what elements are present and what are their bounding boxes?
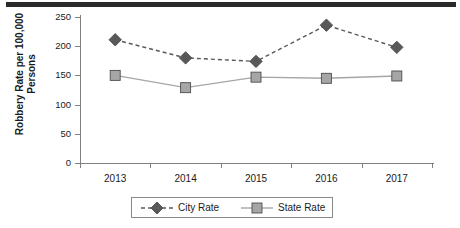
data-point-marker[interactable] — [251, 72, 261, 82]
chart-page: Robbery Rate per 100,000 Persons 0501001… — [0, 0, 460, 228]
chart-legend: City RateState Rate — [131, 197, 333, 218]
data-point-marker[interactable] — [321, 73, 331, 83]
data-point-marker[interactable] — [181, 83, 191, 93]
top-banner-bar — [6, 2, 456, 7]
legend-label: City Rate — [178, 202, 219, 213]
legend-label: State Rate — [278, 202, 325, 213]
data-point-marker[interactable] — [392, 71, 402, 81]
legend-diamond-icon — [140, 201, 174, 215]
legend-entry-city-rate[interactable]: City Rate — [140, 198, 219, 217]
robbery-rate-line-chart: Robbery Rate per 100,000 Persons 0501001… — [0, 8, 460, 220]
legend-square-icon — [240, 201, 274, 215]
legend-entry-state-rate[interactable]: State Rate — [240, 198, 325, 217]
data-point-marker[interactable] — [109, 34, 121, 46]
data-point-marker[interactable] — [250, 55, 262, 67]
data-point-marker[interactable] — [179, 52, 191, 64]
series-city-rate — [109, 19, 403, 68]
data-point-marker[interactable] — [391, 41, 403, 53]
data-point-marker[interactable] — [110, 70, 120, 80]
series-state-rate — [110, 70, 402, 92]
data-point-marker[interactable] — [320, 19, 332, 31]
series-layer — [0, 8, 460, 220]
